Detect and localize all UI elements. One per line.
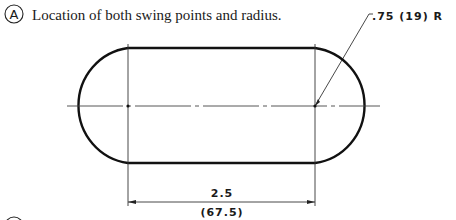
right-swing-point xyxy=(313,104,316,107)
slot-drawing-svg: A Location of both swing points and radi… xyxy=(0,0,456,220)
section-a-marker: A xyxy=(5,5,23,23)
section-b-letter: B xyxy=(10,219,19,220)
slot-outline xyxy=(78,48,364,163)
center-distance-mm: (67.5) xyxy=(200,206,243,219)
section-a-letter: A xyxy=(10,7,19,22)
section-a-caption: Location of both swing points and radius… xyxy=(32,7,282,23)
radius-callout: .75 (19) R xyxy=(372,10,443,23)
dimension-arrow-left-icon xyxy=(128,200,136,204)
dimension-arrow-right-icon xyxy=(307,200,315,204)
section-b-marker: B xyxy=(5,217,23,220)
left-swing-point xyxy=(126,104,129,107)
section-b-caption: Draw lines that connect the arcs. xyxy=(32,219,228,220)
center-distance-inches: 2.5 xyxy=(211,187,234,200)
technical-drawing: A Location of both swing points and radi… xyxy=(0,0,456,220)
